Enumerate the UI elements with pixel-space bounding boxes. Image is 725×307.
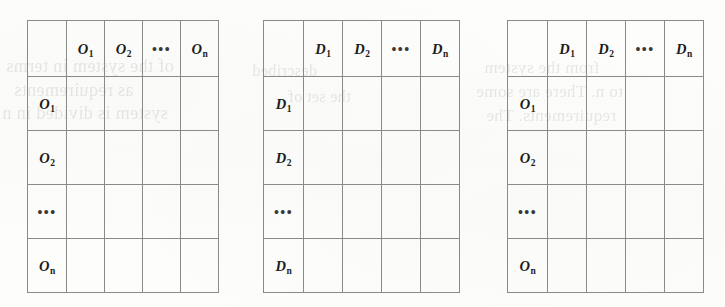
matrix-column-header: On [181,21,219,77]
label-subscript: 2 [365,49,370,59]
label-base: D [432,41,443,57]
matrix-row-header: ••• [28,185,67,239]
label-subscript: 2 [127,49,132,59]
ellipsis-label: ••• [636,43,655,57]
matrix-cell[interactable] [181,131,219,185]
matrix-row: O2 [28,131,219,185]
matrix-cell[interactable] [143,239,181,293]
matrix-cell[interactable] [587,77,626,131]
matrix-cell[interactable] [343,185,382,239]
matrix-cell[interactable] [105,131,143,185]
matrix-cell[interactable] [665,239,704,293]
matrix-cell[interactable] [548,77,587,131]
matrix-cell[interactable] [382,77,421,131]
ellipsis-label: ••• [392,43,411,57]
matrix-cell[interactable] [548,185,587,239]
matrix-cell[interactable] [181,77,219,131]
matrix-cell[interactable] [421,239,460,293]
matrix-cell[interactable] [105,185,143,239]
matrix-cell[interactable] [382,131,421,185]
objects-vs-dependencies-matrix: D1D2•••DnO1O2•••On [507,20,704,293]
matrix-cell[interactable] [304,239,343,293]
matrix-cell[interactable] [67,131,105,185]
matrix-cell[interactable] [143,77,181,131]
ellipsis-label: ••• [152,43,171,57]
label-base: O [520,96,531,112]
matrix-label: D2 [598,42,614,57]
matrix-cell[interactable] [304,77,343,131]
matrix-label: Dn [432,42,448,57]
matrix-cell[interactable] [626,239,665,293]
label-subscript: n [50,266,55,276]
matrix-cell[interactable] [143,131,181,185]
matrix-column-header: ••• [143,21,181,77]
label-subscript: 1 [50,104,55,114]
matrix-cell[interactable] [382,185,421,239]
matrix-row: O1 [508,77,704,131]
matrix-cell[interactable] [421,131,460,185]
matrix-cell[interactable] [587,239,626,293]
matrix-cell[interactable] [421,77,460,131]
label-subscript: 1 [570,49,575,59]
label-base: D [315,41,326,57]
label-base: D [354,41,365,57]
matrix-corner-cell [264,21,304,77]
matrix-cell[interactable] [181,239,219,293]
label-base: D [276,96,287,112]
matrix-column-header: D1 [548,21,587,77]
matrix-cell[interactable] [181,185,219,239]
matrix-row-header: O2 [28,131,67,185]
label-base: O [520,150,531,166]
label-base: D [559,41,570,57]
matrix-cell[interactable] [626,185,665,239]
matrix-header-row: D1D2•••Dn [508,21,704,77]
matrix-cell[interactable] [548,131,587,185]
matrix-cell[interactable] [665,131,704,185]
matrix-cell[interactable] [67,239,105,293]
label-base: O [116,41,127,57]
matrix-cell[interactable] [105,77,143,131]
matrix-label: D1 [559,42,575,57]
matrix-header-row: D1D2•••Dn [264,21,460,77]
label-subscript: 2 [50,158,55,168]
matrix-cell[interactable] [343,77,382,131]
matrix-cell[interactable] [665,77,704,131]
label-subscript: 1 [287,104,292,114]
label-base: O [78,41,89,57]
ellipsis-label: ••• [518,206,537,220]
matrix-cell[interactable] [67,185,105,239]
matrix-cell[interactable] [67,77,105,131]
matrix-row: ••• [508,185,704,239]
matrix-cell[interactable] [587,131,626,185]
matrix-cell[interactable] [343,131,382,185]
matrix-column-header: O2 [105,21,143,77]
matrix-cell[interactable] [143,185,181,239]
matrix-label: O1 [78,42,94,57]
matrix-label: On [191,42,207,57]
matrix-cell[interactable] [421,185,460,239]
matrix-label: On [39,259,55,274]
matrix-row-header: O1 [28,77,67,131]
matrix-cell[interactable] [626,131,665,185]
matrix-cell[interactable] [665,185,704,239]
matrix-row-header: On [28,239,67,293]
matrix-column-header: Dn [421,21,460,77]
matrix-cell[interactable] [343,239,382,293]
matrix-label: Dn [676,42,692,57]
matrix-cell[interactable] [626,77,665,131]
matrix-row-header: O2 [508,131,548,185]
matrix-cell[interactable] [304,131,343,185]
matrix-cell[interactable] [587,185,626,239]
matrix-row: O2 [508,131,704,185]
matrix-row: D1 [264,77,460,131]
label-base: D [676,41,687,57]
matrix-row-header: O1 [508,77,548,131]
matrix-cell[interactable] [304,185,343,239]
matrix-row: ••• [28,185,219,239]
matrix-cell[interactable] [382,239,421,293]
matrix-cell[interactable] [105,239,143,293]
matrix-column-header: ••• [626,21,665,77]
label-subscript: 1 [531,104,536,114]
matrix-cell[interactable] [548,239,587,293]
matrix-corner-cell [28,21,67,77]
